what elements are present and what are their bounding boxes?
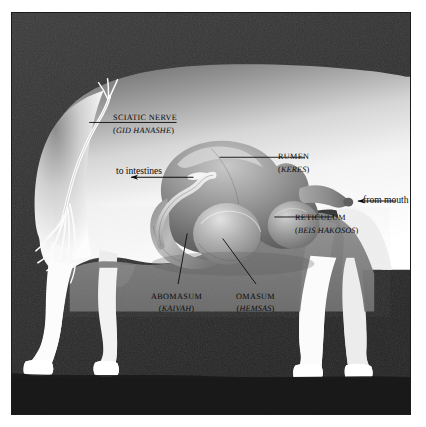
label-sciatic-nerve: SCIATIC NERVE (GID HANASHE) xyxy=(113,113,177,135)
label-reticulum-hebrew-text: BEIS HAKOSOS xyxy=(298,226,356,235)
label-omasum: OMASUM (HEMSAS) xyxy=(236,292,275,313)
label-to-intestines: to intestines xyxy=(116,165,162,176)
figure-root: SCIATIC NERVE (GID HANASHE) RUMEN (KERES… xyxy=(0,0,426,427)
paren-close: ) xyxy=(191,304,194,313)
label-abomasum: ABOMASUM (KAIVAH) xyxy=(151,292,202,313)
label-omasum-hebrew: (HEMSAS) xyxy=(236,304,275,313)
label-abomasum-hebrew-text: KAIVAH xyxy=(162,304,192,313)
label-sciatic-nerve-hebrew: (GID HANASHE) xyxy=(113,126,177,135)
esophagus-opening xyxy=(343,198,353,207)
label-reticulum: RETICULUM (BEIS HAKOSOS) xyxy=(295,213,359,235)
label-from-mouth: from mouth xyxy=(363,194,409,205)
label-omasum-hebrew-text: HEMSAS xyxy=(239,304,271,313)
label-abomasum-term: ABOMASUM xyxy=(151,292,202,301)
label-reticulum-hebrew: (BEIS HAKOSOS) xyxy=(295,226,359,235)
paren-close: ) xyxy=(171,126,174,135)
label-rumen-hebrew: (KERES) xyxy=(278,165,309,174)
paren-close: ) xyxy=(272,304,275,313)
label-rumen: RUMEN (KERES) xyxy=(278,152,309,174)
label-rumen-hebrew-text: KERES xyxy=(281,165,307,174)
label-sciatic-nerve-hebrew-text: GID HANASHE xyxy=(116,126,171,135)
label-abomasum-hebrew: (KAIVAH) xyxy=(151,304,202,313)
label-rumen-term: RUMEN xyxy=(278,152,309,161)
paren-close: ) xyxy=(307,165,310,174)
label-sciatic-nerve-term: SCIATIC NERVE xyxy=(113,113,177,122)
label-reticulum-term: RETICULUM xyxy=(295,213,359,222)
illustration-plate: SCIATIC NERVE (GID HANASHE) RUMEN (KERES… xyxy=(11,12,411,415)
paren-close: ) xyxy=(356,226,359,235)
label-omasum-term: OMASUM xyxy=(236,292,275,301)
